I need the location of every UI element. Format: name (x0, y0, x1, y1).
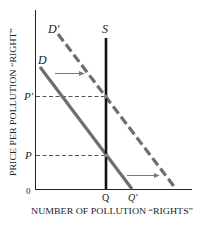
pollution-rights-diagram: D′ S D P′ P 0 Q Q′ NUMBER OF POLLUTION “… (0, 0, 211, 225)
label-s: S (102, 22, 108, 36)
y-axis-title: PRICE PER POLLUTION “RIGHT” (8, 28, 18, 176)
x-axis-title: NUMBER OF POLLUTION “RIGHTS” (31, 206, 193, 216)
label-d-prime: D′ (47, 22, 60, 36)
label-d: D (37, 53, 47, 67)
tick-q: Q (102, 192, 110, 203)
tick-q-prime: Q′ (128, 192, 138, 203)
tick-p: P (24, 149, 32, 161)
origin-zero: 0 (26, 186, 31, 196)
tick-p-prime: P′ (23, 90, 34, 102)
demand-curve-d-prime (58, 34, 176, 189)
equilibrium-point-original (104, 154, 108, 158)
demand-curve-d (40, 67, 132, 189)
equilibrium-point-new (104, 95, 108, 99)
